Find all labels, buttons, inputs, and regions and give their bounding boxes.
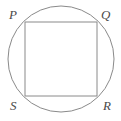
vertex-label-q: Q <box>101 8 110 21</box>
vertex-label-r: R <box>103 99 111 112</box>
vertex-label-p: P <box>9 8 17 21</box>
geometry-figure: P Q R S <box>0 0 121 121</box>
vertex-label-s: S <box>10 99 17 112</box>
